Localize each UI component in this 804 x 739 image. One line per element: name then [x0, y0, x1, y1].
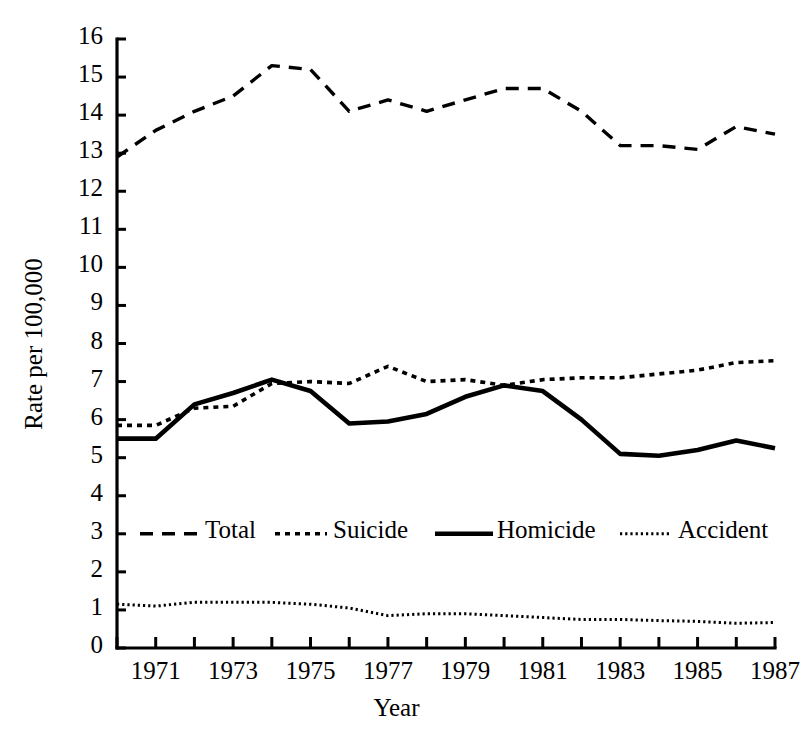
y-tick-label: 9	[55, 288, 103, 316]
y-tick-label: 3	[55, 517, 103, 545]
y-axis-label: Rate per 100,000	[20, 194, 48, 494]
legend-label-suicide: Suicide	[333, 516, 408, 544]
series-line-suicide	[117, 361, 775, 426]
x-tick-label: 1985	[658, 657, 738, 685]
x-tick-label: 1977	[348, 657, 428, 685]
y-tick-label: 0	[55, 631, 103, 659]
x-tick-label: 1981	[503, 657, 583, 685]
y-tick-label: 10	[55, 250, 103, 278]
y-tick-label: 4	[55, 479, 103, 507]
x-tick-label: 1983	[580, 657, 660, 685]
y-tick-label: 11	[55, 212, 103, 240]
legend-label-homicide: Homicide	[497, 516, 596, 544]
chart-axes	[117, 39, 775, 648]
y-tick-label: 12	[55, 174, 103, 202]
y-tick-label: 16	[55, 22, 103, 50]
x-tick-label: 1973	[193, 657, 273, 685]
legend-label-total: Total	[205, 516, 256, 544]
x-tick-label: 1971	[116, 657, 196, 685]
y-tick-label: 14	[55, 98, 103, 126]
series-line-homicide	[117, 380, 775, 456]
x-tick-label: 1979	[425, 657, 505, 685]
y-axis-label-container: Rate per 100,000	[0, 0, 40, 739]
y-tick-label: 2	[55, 555, 103, 583]
legend-label-accident: Accident	[678, 516, 768, 544]
y-tick-label: 6	[55, 403, 103, 431]
x-tick-label: 1987	[735, 657, 804, 685]
y-tick-label: 7	[55, 365, 103, 393]
y-tick-label: 1	[55, 593, 103, 621]
y-tick-label: 5	[55, 441, 103, 469]
x-axis-label: Year	[0, 694, 793, 722]
series-line-accident	[117, 602, 775, 623]
y-tick-label: 8	[55, 327, 103, 355]
x-tick-label: 1975	[271, 657, 351, 685]
series-line-total	[117, 66, 775, 157]
y-tick-label: 15	[55, 60, 103, 88]
y-tick-label: 13	[55, 136, 103, 164]
